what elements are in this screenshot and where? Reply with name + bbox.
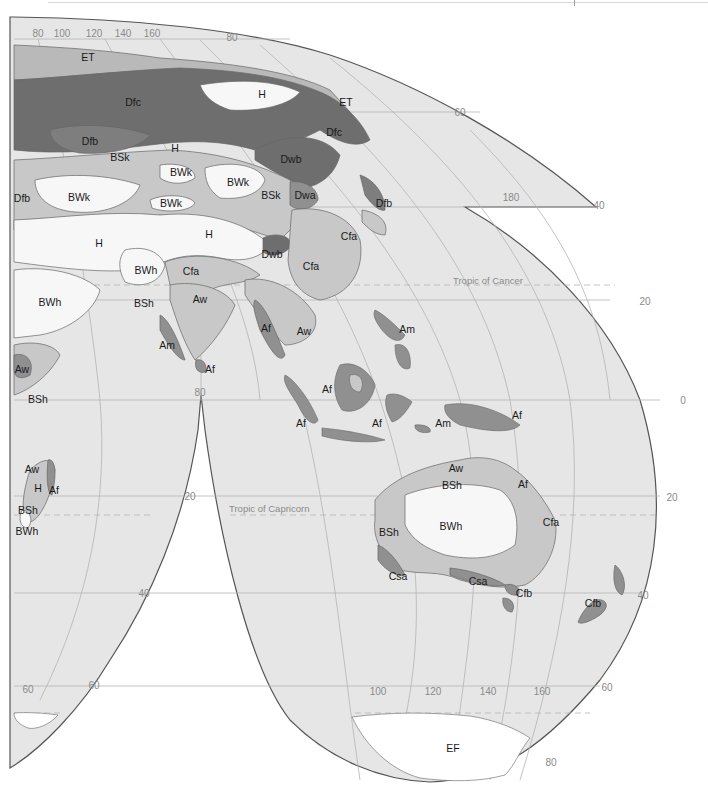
lon-label: 160 bbox=[534, 687, 551, 697]
climate-label-bwh: BWh bbox=[39, 297, 62, 308]
climate-label-cfb: Cfb bbox=[585, 598, 601, 609]
lon-label: 100 bbox=[370, 687, 387, 697]
climate-label-aw: Aw bbox=[297, 326, 311, 337]
climate-label-bwk: BWk bbox=[160, 198, 182, 209]
climate-label-aw: Aw bbox=[449, 463, 463, 474]
lat-label: 80 bbox=[194, 388, 205, 398]
climate-label-bsh: BSh bbox=[442, 480, 462, 491]
climate-label-dfb: Dfb bbox=[82, 136, 98, 147]
climate-label-bwh: BWh bbox=[16, 526, 39, 537]
climate-label-dfb: Dfb bbox=[376, 198, 392, 209]
lat-label: 40 bbox=[138, 589, 149, 599]
lat-label: 60 bbox=[88, 681, 99, 691]
climate-label-ef: EF bbox=[446, 743, 459, 754]
lat-label: 20 bbox=[639, 297, 650, 307]
climate-label-bsh: BSh bbox=[134, 298, 154, 309]
climate-label-bwk: BWk bbox=[170, 167, 192, 178]
climate-label-bsh: BSh bbox=[28, 394, 48, 405]
climate-label-dfc: Dfc bbox=[125, 97, 141, 108]
climate-label-dfb: Dfb bbox=[14, 193, 30, 204]
climate-label-bwk: BWk bbox=[227, 177, 249, 188]
lon-label: 140 bbox=[115, 29, 132, 39]
climate-label-h: H bbox=[95, 238, 103, 249]
lon-label: 160 bbox=[144, 29, 161, 39]
lat-label: 60 bbox=[601, 683, 612, 693]
climate-label-h: H bbox=[171, 143, 179, 154]
climate-label-h: H bbox=[34, 483, 42, 494]
climate-label-am: Am bbox=[435, 418, 451, 429]
climate-label-bwh: BWh bbox=[440, 521, 463, 532]
climate-label-et: ET bbox=[339, 97, 352, 108]
climate-label-cfa: Cfa bbox=[341, 231, 357, 242]
lon-label: 140 bbox=[480, 687, 497, 697]
tropic-of-capricorn-label: Tropic of Capricorn bbox=[229, 504, 309, 514]
climate-label-csa: Csa bbox=[389, 571, 408, 582]
climate-label-af: Af bbox=[372, 418, 382, 429]
climate-label-af: Af bbox=[49, 485, 59, 496]
climate-label-af: Af bbox=[512, 410, 522, 421]
climate-label-af: Af bbox=[322, 384, 332, 395]
lat-label: 40 bbox=[593, 201, 604, 211]
climate-label-aw: Aw bbox=[193, 294, 207, 305]
climate-label-cfb: Cfb bbox=[516, 588, 532, 599]
climate-label-am: Am bbox=[159, 340, 175, 351]
climate-label-cfa: Cfa bbox=[303, 261, 319, 272]
climate-label-aw: Aw bbox=[25, 464, 39, 475]
climate-label-af: Af bbox=[296, 418, 306, 429]
climate-label-am: Am bbox=[399, 324, 415, 335]
lat-label: 60 bbox=[454, 108, 465, 118]
lon-label: 120 bbox=[425, 687, 442, 697]
lat-label: 80 bbox=[226, 33, 237, 43]
lat-label: 40 bbox=[637, 591, 648, 601]
climate-label-dwa: Dwa bbox=[294, 190, 315, 201]
climate-label-h: H bbox=[258, 89, 266, 100]
climate-label-cfa: Cfa bbox=[183, 266, 199, 277]
lat-label: 0 bbox=[680, 396, 686, 406]
climate-label-et: ET bbox=[81, 52, 94, 63]
lat-label: 80 bbox=[545, 758, 556, 768]
climate-label-bsk: BSk bbox=[110, 152, 129, 163]
climate-label-csa: Csa bbox=[469, 576, 488, 587]
lon-label: 100 bbox=[54, 29, 71, 39]
lon-label: 80 bbox=[32, 29, 43, 39]
climate-label-bwh: BWh bbox=[135, 265, 158, 276]
climate-label-bsh: BSh bbox=[379, 527, 399, 538]
tropic-of-cancer-label: Tropic of Cancer bbox=[453, 276, 523, 286]
climate-label-h: H bbox=[205, 229, 213, 240]
lon-label: 120 bbox=[86, 29, 103, 39]
lat-label: 60 bbox=[22, 685, 33, 695]
lat-label: 20 bbox=[666, 493, 677, 503]
climate-label-dfc: Dfc bbox=[326, 127, 342, 138]
climate-label-bsh: BSh bbox=[18, 505, 38, 516]
climate-label-bwk: BWk bbox=[68, 192, 90, 203]
climate-label-cfa: Cfa bbox=[543, 517, 559, 528]
climate-label-dwb: Dwb bbox=[280, 154, 301, 165]
climate-label-aw: Aw bbox=[15, 364, 29, 375]
climate-label-af: Af bbox=[261, 323, 271, 334]
climate-label-bsk: BSk bbox=[261, 190, 280, 201]
climate-label-dwb: Dwb bbox=[261, 249, 282, 260]
lon-label: 180 bbox=[503, 193, 520, 203]
climate-label-af: Af bbox=[518, 479, 528, 490]
lat-label: 20 bbox=[184, 492, 195, 502]
climate-label-af: Af bbox=[205, 364, 215, 375]
